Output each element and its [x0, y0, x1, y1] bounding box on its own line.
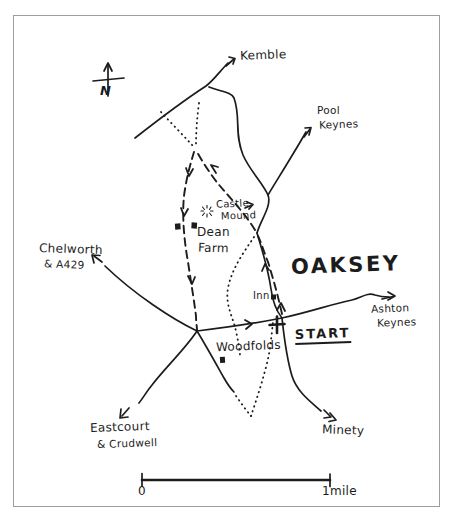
road-to-oaksey-village: [257, 233, 282, 318]
route-arrow-upleft-icon: [211, 165, 218, 173]
castle-mound-label-line2: Mound: [221, 210, 257, 222]
dean-farm-label-line2: Farm: [198, 241, 229, 255]
footpath-north: [196, 103, 199, 146]
kemble-label: Kemble: [240, 48, 287, 62]
eastcourt-label-line1: Eastcourt: [90, 420, 150, 435]
inn-label: Inn: [253, 291, 270, 302]
ashton-keynes-label-line2: Keynes: [377, 316, 417, 328]
eastcourt-arrow-icon: [120, 408, 129, 418]
chelworth-label-line1: Chelworth: [39, 242, 103, 257]
hand-drawn-walk-map: Kemble Pool Keynes Castle Mound Dean Far…: [0, 0, 453, 523]
road-village-east-west: [197, 294, 389, 331]
footpaths-dotted: [161, 103, 273, 416]
route-west-leg: [183, 152, 197, 330]
road-to-eastcourt: [139, 331, 197, 403]
road-to-pool-keynes: [268, 132, 306, 195]
road-to-kemble: [135, 63, 228, 138]
minety-arrow-icon: [324, 410, 336, 422]
woodfolds-building-icon: [220, 357, 225, 363]
compass-north-letter: N: [100, 84, 111, 98]
castle-mound-icon: [201, 206, 213, 218]
route-arrow-down-2-icon: [181, 208, 188, 216]
ashton-keynes-label-line1: Ashton: [371, 302, 410, 314]
inn-building-icon: [271, 295, 276, 300]
eastcourt-label-line2: & Crudwell: [97, 437, 158, 450]
pool-keynes-label-line1: Pool: [317, 105, 340, 116]
footpath-v-right: [251, 322, 273, 416]
kemble-arrow-icon: [226, 57, 235, 66]
castle-mound-label-line1: Castle: [216, 198, 249, 210]
dean-farm-label-line1: Dean: [197, 226, 230, 239]
road-to-chelworth: [105, 266, 197, 331]
scale-mile-label: 1mile: [322, 485, 357, 498]
dean-farm-building-icon: [175, 223, 181, 229]
roads: [105, 63, 389, 411]
footpath-v-left: [236, 396, 251, 416]
scale-bar: [142, 474, 330, 487]
route-arrow-up-2-icon: [262, 264, 269, 271]
scale-zero-label: 0: [138, 485, 146, 498]
chelworth-label-line2: & A429: [44, 258, 85, 270]
destination-arrows: [92, 57, 395, 422]
woodfolds-label: Woodfolds: [216, 339, 281, 354]
route-direction-arrows: [181, 165, 285, 329]
footpath-northwest: [161, 112, 193, 146]
pool-keynes-label-line2: Keynes: [319, 118, 359, 130]
minety-label: Minety: [322, 423, 365, 437]
oaksey-label: OAKSEY: [291, 252, 401, 278]
start-label: START: [295, 326, 351, 345]
